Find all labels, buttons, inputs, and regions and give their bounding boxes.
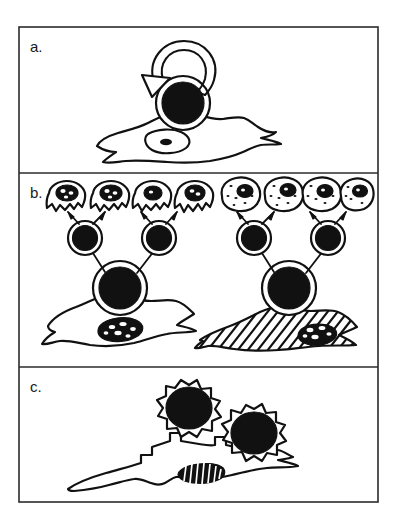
panel-c-cog-particle-2 — [222, 404, 286, 461]
panel-b-left-mid-particle-1-core — [73, 226, 98, 251]
panel-b-left-big-particle-core — [99, 267, 141, 309]
panel-b-right-big-particle-core — [268, 267, 310, 309]
panel-a-nucleolus — [160, 139, 172, 146]
figure-root: a. b. — [0, 0, 398, 528]
panel-a-particle-core — [162, 82, 204, 124]
panel-c-cog-particle-1 — [157, 380, 221, 437]
panel-b-daughter-right-1 — [222, 177, 261, 211]
figure-canvas: a. b. — [0, 0, 398, 528]
panel-b-right-mid-particle-1-core — [242, 226, 267, 251]
panel-a-label: a. — [30, 38, 43, 55]
panel-b-daughter-right-2 — [265, 177, 304, 211]
panel-b-left-mid-particle-2-core — [147, 226, 172, 251]
panel-b-label: b. — [30, 184, 43, 201]
panel-c-label: c. — [30, 378, 42, 395]
panel-b-right-mid-particle-2-core — [316, 226, 341, 251]
panel-b-daughter-right-3 — [303, 177, 342, 211]
panel-b-daughter-right-4 — [341, 178, 374, 210]
